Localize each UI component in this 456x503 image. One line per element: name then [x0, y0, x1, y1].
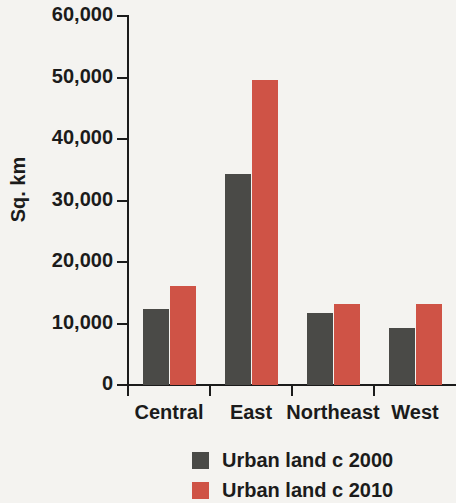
bar-east-2010 [252, 80, 278, 385]
x-tick-west [373, 385, 375, 396]
legend-label-2010: Urban land c 2010 [222, 480, 393, 500]
y-tick-60000 [117, 15, 128, 17]
legend-swatch-icon-2000 [192, 452, 209, 469]
legend-swatch-icon-2010 [192, 482, 209, 499]
y-tick-10000 [117, 323, 128, 325]
legend-label-2000: Urban land c 2000 [222, 450, 393, 470]
x-tick-northeast [291, 385, 293, 396]
y-tick-label-40000: 40,000 [5, 126, 113, 149]
x-axis-label-northeast: Northeast [286, 401, 380, 424]
x-tick-central [127, 385, 129, 396]
bar-northeast-2010 [334, 304, 360, 385]
y-tick-30000 [117, 200, 128, 202]
y-tick-label-10000: 10,000 [5, 311, 113, 334]
x-axis-label-west: West [368, 401, 456, 424]
bar-west-2010 [416, 304, 442, 385]
x-axis-label-east: East [204, 401, 298, 424]
y-tick-20000 [117, 261, 128, 263]
y-tick-label-20000: 20,000 [5, 249, 113, 272]
chart-legend: Urban land c 2000Urban land c 2010 [192, 448, 393, 502]
bar-east-2000 [225, 174, 251, 385]
y-tick-label-30000: 30,000 [5, 188, 113, 211]
bar-central-2010 [170, 286, 196, 385]
x-tick-east [209, 385, 211, 396]
bar-central-2000 [143, 309, 169, 385]
y-tick-50000 [117, 77, 128, 79]
y-tick-label-0: 0 [5, 372, 113, 395]
y-tick-40000 [117, 138, 128, 140]
x-axis-label-central: Central [122, 401, 216, 424]
y-tick-label-60000: 60,000 [5, 3, 113, 26]
bar-west-2000 [389, 328, 415, 385]
legend-item-2010: Urban land c 2010 [192, 478, 393, 502]
y-tick-label-50000: 50,000 [5, 65, 113, 88]
bar-northeast-2000 [307, 313, 333, 385]
legend-item-2000: Urban land c 2000 [192, 448, 393, 472]
bar-chart: Sq. km 010,00020,00030,00040,00050,00060… [0, 0, 456, 503]
y-axis-tick-labels: 010,00020,00030,00040,00050,00060,000 [0, 0, 113, 400]
